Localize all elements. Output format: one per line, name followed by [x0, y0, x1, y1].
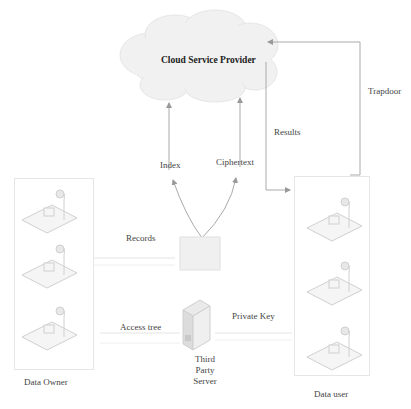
records-label: Records: [126, 233, 156, 243]
server-label-line2: Party: [188, 365, 222, 376]
ciphertext-label: Ciphertext: [216, 157, 254, 167]
trapdoor-arrow: [268, 42, 360, 175]
server-label-line1: Third: [188, 354, 222, 365]
index-label: Index: [160, 160, 181, 170]
third-party-server-icon: [183, 300, 210, 350]
data-owner-label: Data Owner: [24, 377, 68, 387]
third-party-server-label: Third Party Server: [188, 354, 222, 387]
records-store: [180, 237, 220, 270]
access-tree-label: Access tree: [120, 322, 161, 332]
cloud-service-provider-label: Cloud Service Provider: [161, 55, 256, 65]
records-to-index-curve: [173, 180, 202, 238]
private-key-label: Private Key: [232, 311, 275, 321]
records-to-ciphertext-curve: [202, 178, 236, 238]
trapdoor-label: Trapdoor: [368, 86, 401, 96]
data-user-label: Data user: [314, 389, 348, 399]
server-label-line3: Server: [188, 376, 222, 387]
data-user-group: [294, 176, 370, 376]
data-owner-group: [14, 178, 94, 370]
results-label: Results: [274, 127, 301, 137]
